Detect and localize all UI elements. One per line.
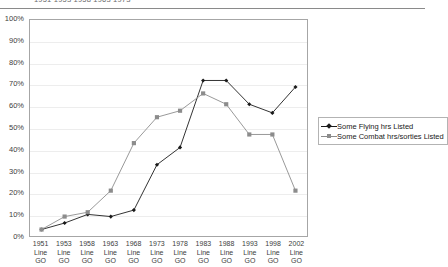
- x-axis-tick-line: GO: [214, 257, 240, 266]
- x-axis-tick-line: Line: [51, 249, 77, 258]
- x-axis-tick-line: GO: [260, 257, 286, 266]
- x-axis-tick-label: 1973LineGO: [144, 240, 170, 266]
- x-axis-tick-line: Line: [121, 249, 147, 258]
- x-axis-tick-line: Line: [283, 249, 309, 258]
- data-point-marker: [132, 208, 136, 212]
- x-axis-tick-line: Line: [214, 249, 240, 258]
- series-diamond: [39, 78, 297, 231]
- x-axis-tick-label: 2002LineGO: [283, 240, 309, 266]
- x-axis: 1951LineGO1953LineGO1958LineGO1963LineGO…: [29, 240, 308, 267]
- x-axis-tick-label: 1968LineGO: [121, 240, 147, 266]
- x-axis-tick-line: Line: [28, 249, 54, 258]
- x-axis-tick-line: GO: [167, 257, 193, 266]
- x-axis-tick-label: 1958LineGO: [74, 240, 100, 266]
- x-axis-tick-line: 1978: [167, 240, 193, 249]
- y-axis-tick-label: 90%: [9, 37, 24, 45]
- y-axis-tick-label: 40%: [9, 146, 24, 154]
- data-point-marker: [178, 109, 182, 113]
- x-axis-tick-line: GO: [51, 257, 77, 266]
- y-axis-tick-label: 30%: [9, 168, 24, 176]
- x-axis-tick-label: 1963LineGO: [97, 240, 123, 266]
- x-axis-tick-label: 1983LineGO: [190, 240, 216, 266]
- data-point-marker: [109, 214, 113, 218]
- x-axis-tick-line: GO: [74, 257, 100, 266]
- x-axis-tick-line: Line: [97, 249, 123, 258]
- x-axis-tick-line: Line: [74, 249, 100, 258]
- x-axis-tick-line: Line: [237, 249, 263, 258]
- data-point-marker: [132, 141, 136, 145]
- data-point-marker: [270, 132, 274, 136]
- x-axis-tick-line: GO: [144, 257, 170, 266]
- x-axis-tick-line: Line: [144, 249, 170, 258]
- y-axis-tick-label: 10%: [9, 211, 24, 219]
- y-axis-tick-label: 60%: [9, 102, 24, 110]
- plot-area: [29, 19, 308, 237]
- data-point-marker: [63, 221, 67, 225]
- data-point-marker: [201, 78, 205, 82]
- x-axis-tick-line: 1951: [28, 240, 54, 249]
- series-layer: [30, 20, 307, 236]
- chart-legend: Some Flying hrs ListedSome Combat hrs/so…: [318, 117, 448, 145]
- x-axis-tick-label: 1951LineGO: [28, 240, 54, 266]
- legend-marker-icon: [321, 122, 337, 131]
- y-axis-tick-label: 70%: [9, 81, 24, 89]
- x-axis-tick-line: GO: [237, 257, 263, 266]
- legend-entry[interactable]: Some Flying hrs Listed: [321, 121, 444, 131]
- x-axis-tick-line: Line: [167, 249, 193, 258]
- x-axis-tick-line: 1998: [260, 240, 286, 249]
- x-axis-tick-label: 1953LineGO: [51, 240, 77, 266]
- legend-entry[interactable]: Some Combat hrs/sorties Listed: [321, 131, 444, 141]
- line-chart: 0%10%20%30%40%50%60%70%80%90%100% 1951Li…: [0, 10, 425, 261]
- x-axis-tick-line: GO: [97, 257, 123, 266]
- x-axis-tick-line: GO: [28, 257, 54, 266]
- x-axis-tick-line: Line: [190, 249, 216, 258]
- x-axis-tick-line: Line: [260, 249, 286, 258]
- data-point-marker: [63, 214, 67, 218]
- y-axis-tick-label: 0%: [13, 233, 24, 241]
- data-point-marker: [247, 132, 251, 136]
- x-axis-tick-label: 1978LineGO: [167, 240, 193, 266]
- x-axis-tick-line: 2002: [283, 240, 309, 249]
- clipped-header-text: 1951 1953 1958 1963 1973: [34, 0, 131, 4]
- x-axis-tick-label: 1998LineGO: [260, 240, 286, 266]
- x-axis-tick-line: 1988: [214, 240, 240, 249]
- data-point-marker: [109, 189, 113, 193]
- data-point-marker: [155, 115, 159, 119]
- x-axis-tick-line: 1983: [190, 240, 216, 249]
- series-line: [42, 80, 296, 229]
- x-axis-tick-label: 1988LineGO: [214, 240, 240, 266]
- x-axis-tick-label: 1993LineGO: [237, 240, 263, 266]
- series-line: [42, 93, 296, 229]
- x-axis-tick-line: 1953: [51, 240, 77, 249]
- y-axis-tick-label: 100%: [5, 15, 24, 23]
- x-axis-tick-line: GO: [283, 257, 309, 266]
- series-square: [39, 91, 297, 231]
- x-axis-tick-line: 1958: [74, 240, 100, 249]
- y-axis-tick-label: 20%: [9, 190, 24, 198]
- x-axis-tick-line: 1993: [237, 240, 263, 249]
- data-point-marker: [86, 210, 90, 214]
- data-point-marker: [39, 227, 43, 231]
- data-point-marker: [201, 91, 205, 95]
- x-axis-tick-line: 1968: [121, 240, 147, 249]
- x-axis-tick-line: 1963: [97, 240, 123, 249]
- x-axis-tick-line: 1973: [144, 240, 170, 249]
- data-point-marker: [293, 189, 297, 193]
- x-axis-tick-line: GO: [121, 257, 147, 266]
- y-axis: 0%10%20%30%40%50%60%70%80%90%100%: [0, 19, 27, 237]
- legend-label: Some Combat hrs/sorties Listed: [337, 132, 444, 141]
- y-axis-tick-label: 50%: [9, 124, 24, 132]
- x-axis-tick-line: GO: [190, 257, 216, 266]
- legend-label: Some Flying hrs Listed: [337, 122, 413, 131]
- legend-marker-icon: [321, 132, 337, 141]
- y-axis-tick-label: 80%: [9, 59, 24, 67]
- data-point-marker: [224, 102, 228, 106]
- header-divider: [0, 8, 425, 9]
